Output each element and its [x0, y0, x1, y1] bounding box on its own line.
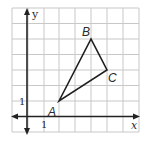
x-axis-label: x — [131, 119, 138, 132]
y-axis-label: y — [31, 8, 39, 21]
vertex-label-b: B — [82, 25, 90, 39]
vertex-label-c: C — [108, 71, 117, 85]
y-axis-up-arrow-icon — [24, 8, 30, 15]
coordinate-plane: y x 1 1 A B C — [0, 0, 153, 146]
x-tick-label-1: 1 — [41, 119, 47, 130]
vertex-label-a: A — [47, 105, 56, 119]
y-tick-label-1: 1 — [19, 96, 25, 107]
